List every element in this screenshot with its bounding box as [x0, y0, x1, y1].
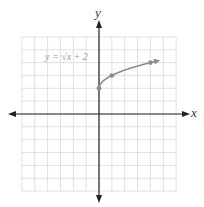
x-axis-label: x — [191, 105, 197, 121]
axes — [8, 20, 190, 203]
y-axis-label: y — [95, 5, 101, 21]
coordinate-plane — [0, 0, 204, 207]
equation-label: y = √x + 2 — [45, 51, 88, 62]
